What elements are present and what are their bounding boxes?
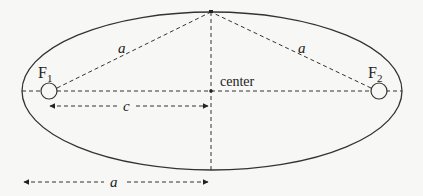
- a-label-upper-left: a: [118, 40, 126, 56]
- focus2-label: F2: [368, 64, 382, 84]
- center-label: center: [220, 74, 255, 89]
- center-point: [209, 89, 213, 93]
- focus1-label: F1: [38, 64, 52, 84]
- ellipse-diagram: F1 F2 center a a c a: [0, 0, 423, 196]
- focus1-to-top-line: [57, 12, 211, 88]
- focus1-circle: [41, 83, 57, 99]
- a-label-upper-right: a: [298, 40, 306, 56]
- top-vertex-mark: [209, 10, 213, 13]
- a-label-bottom: a: [110, 174, 118, 190]
- c-label: c: [123, 98, 130, 114]
- focus2-circle: [371, 83, 387, 99]
